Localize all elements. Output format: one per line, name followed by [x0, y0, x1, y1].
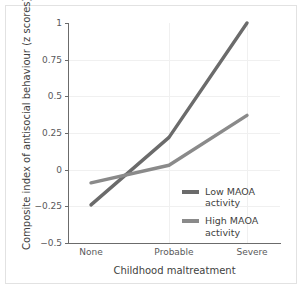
chart-legend: Low MAOA activity High MAOA activity	[182, 186, 258, 245]
y-tick-label: 1	[56, 19, 62, 28]
x-tick-label-probable: Probable	[154, 248, 193, 257]
x-axis-title: Childhood maltreatment	[68, 266, 281, 276]
chart-figure: 1 0.75 0.5 0.25 0 −0.25 −0.5 None Probab…	[0, 0, 302, 289]
legend-swatch-high-maoa	[182, 219, 199, 223]
y-tick-label: −0.25	[34, 202, 62, 211]
y-tick-label: 0.75	[42, 55, 62, 64]
y-tick-label: 0.25	[42, 129, 62, 138]
legend-label-low-maoa: Low MAOA activity	[205, 186, 255, 208]
legend-item-high-maoa: High MAOA activity	[182, 215, 258, 237]
y-tick-label-group: 1 0.75 0.5 0.25 0 −0.25 −0.5	[28, 23, 62, 243]
x-tick-label-severe: Severe	[236, 248, 267, 257]
y-tick-label: 0.5	[48, 92, 62, 101]
legend-swatch-low-maoa	[182, 190, 199, 194]
legend-label-high-maoa: High MAOA activity	[205, 215, 258, 237]
series-line-high-maoa	[91, 115, 247, 182]
y-axis-line	[68, 23, 69, 244]
y-tick-label: −0.5	[40, 239, 62, 248]
x-tick-label-none: None	[79, 248, 102, 257]
y-axis-title: Composite index of antisocial behaviour …	[22, 20, 32, 250]
y-tick-label: 0	[56, 165, 62, 174]
legend-item-low-maoa: Low MAOA activity	[182, 186, 258, 208]
